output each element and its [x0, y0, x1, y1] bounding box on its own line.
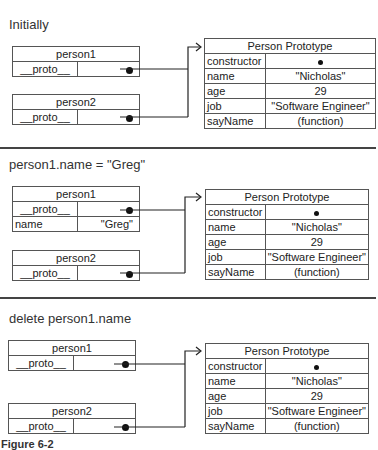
own-property-value: "Greg" [78, 217, 140, 232]
person2-label: person2 [9, 404, 136, 419]
person1-label: person1 [13, 47, 140, 62]
figure-caption: Figure 6-2 [1, 438, 54, 450]
person1-object: person1 __proto__ name "Greg" [12, 186, 140, 232]
proto-key: __proto__ [13, 110, 78, 125]
pointer-dot-icon [126, 115, 133, 122]
person-prototype-object: Person Prototype constructor name"Nichol… [205, 189, 369, 280]
person2-label: person2 [13, 95, 140, 110]
prototype-value: (function) [266, 114, 376, 129]
proto-pointer [78, 202, 140, 217]
prototype-value [265, 205, 368, 220]
person1-label: person1 [9, 341, 136, 356]
person1-object: person1 __proto__ [12, 46, 140, 77]
prototype-value: "Software Engineer" [266, 99, 376, 114]
prototype-value: 29 [265, 235, 368, 250]
prototype-value: (function) [265, 419, 368, 434]
prototype-label: Person Prototype [206, 190, 369, 205]
prototype-key: sayName [206, 419, 266, 434]
prototype-value: "Nicholas" [266, 69, 376, 84]
person2-object: person2 __proto__ [12, 250, 140, 281]
pointer-dot-icon [126, 67, 133, 74]
section-divider [0, 147, 376, 149]
prototype-key: age [206, 235, 266, 250]
person-prototype-object: Person Prototype constructor name"Nichol… [204, 38, 376, 129]
prototype-key: constructor [206, 205, 266, 220]
constructor-dot-icon [314, 211, 319, 216]
pointer-dot-icon [126, 271, 133, 278]
prototype-key: name [206, 374, 266, 389]
prototype-value: (function) [265, 265, 368, 280]
section-divider [0, 297, 376, 299]
prototype-value [266, 54, 376, 69]
section-title-delete-name: delete person1.name [9, 311, 131, 326]
pointer-dot-icon [126, 207, 133, 214]
proto-key: __proto__ [9, 419, 74, 434]
prototype-value: 29 [266, 84, 376, 99]
prototype-key: sayName [205, 114, 266, 129]
prototype-key: job [206, 404, 266, 419]
section-title-assign-name: person1.name = "Greg" [9, 157, 145, 172]
person2-object: person2 __proto__ [8, 403, 136, 434]
own-property-key: name [13, 217, 78, 232]
proto-key: __proto__ [13, 202, 78, 217]
prototype-key: job [206, 250, 266, 265]
proto-pointer [74, 419, 136, 434]
prototype-key: age [206, 389, 266, 404]
proto-pointer [74, 356, 136, 371]
proto-key: __proto__ [13, 62, 78, 77]
prototype-value: "Software Engineer" [265, 250, 368, 265]
person-prototype-object: Person Prototype constructor name"Nichol… [205, 343, 369, 434]
prototype-key: name [206, 220, 266, 235]
pointer-dot-icon [122, 424, 129, 431]
prototype-value: 29 [265, 389, 368, 404]
constructor-dot-icon [314, 365, 319, 370]
proto-key: __proto__ [13, 266, 78, 281]
prototype-value [265, 359, 368, 374]
proto-pointer [78, 110, 140, 125]
proto-key: __proto__ [9, 356, 74, 371]
prototype-value: "Nicholas" [265, 374, 368, 389]
prototype-label: Person Prototype [206, 344, 369, 359]
prototype-key: sayName [206, 265, 266, 280]
proto-pointer [78, 62, 140, 77]
prototype-value: "Nicholas" [265, 220, 368, 235]
prototype-key: age [205, 84, 266, 99]
prototype-key: constructor [205, 54, 266, 69]
person2-label: person2 [13, 251, 140, 266]
proto-pointer [78, 266, 140, 281]
pointer-dot-icon [122, 361, 129, 368]
prototype-key: constructor [206, 359, 266, 374]
prototype-value: "Software Engineer" [265, 404, 368, 419]
prototype-key: job [205, 99, 266, 114]
prototype-key: name [205, 69, 266, 84]
person2-object: person2 __proto__ [12, 94, 140, 125]
person1-label: person1 [13, 187, 140, 202]
prototype-label: Person Prototype [205, 39, 376, 54]
constructor-dot-icon [318, 60, 323, 65]
section-title-initially: Initially [9, 17, 49, 32]
person1-object: person1 __proto__ [8, 340, 136, 371]
